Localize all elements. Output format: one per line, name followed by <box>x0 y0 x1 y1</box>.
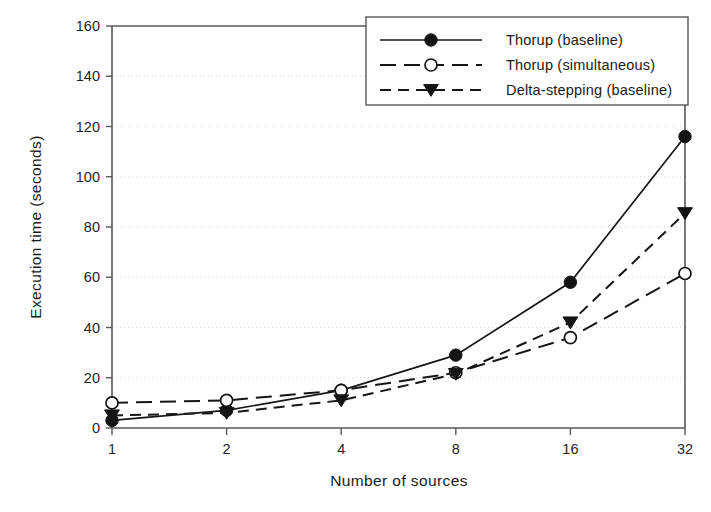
y-tick-label: 100 <box>76 169 100 185</box>
x-tick-label: 2 <box>223 441 231 457</box>
y-tick-label: 0 <box>92 420 100 436</box>
x-tick-label: 4 <box>337 441 345 457</box>
y-tick-label: 160 <box>76 18 100 34</box>
marker-open-circle <box>679 267 691 279</box>
x-tick-label: 1 <box>108 441 116 457</box>
marker-filled-circle <box>679 130 691 142</box>
x-tick-label: 8 <box>452 441 460 457</box>
marker-filled-circle <box>564 276 576 288</box>
line-chart: 020406080100120140160 12481632 Thorup (b… <box>0 0 711 512</box>
series-1 <box>106 130 691 426</box>
marker-open-circle <box>425 59 437 71</box>
series-line <box>112 137 685 421</box>
y-tick-label: 120 <box>76 119 100 135</box>
marker-filled-circle <box>425 34 437 46</box>
series-line <box>112 273 685 402</box>
chart-legend: Thorup (baseline)Thorup (simultaneous)De… <box>366 17 688 105</box>
legend-label: Thorup (simultaneous) <box>506 57 655 73</box>
x-tick-label: 16 <box>562 441 578 457</box>
x-axis-title: Number of sources <box>330 472 468 489</box>
marker-open-circle <box>106 397 118 409</box>
x-axis-ticks: 12481632 <box>108 428 693 457</box>
y-axis-title: Execution time (seconds) <box>27 135 44 319</box>
chart-figure: 020406080100120140160 12481632 Thorup (b… <box>0 0 711 512</box>
marker-open-circle <box>564 332 576 344</box>
marker-filled-triangle-down <box>678 208 693 220</box>
series-group <box>105 130 693 426</box>
x-tick-label: 32 <box>677 441 693 457</box>
legend-label: Delta-stepping (baseline) <box>506 82 672 98</box>
y-tick-label: 60 <box>84 269 100 285</box>
marker-open-circle <box>221 394 233 406</box>
marker-filled-triangle-down <box>563 317 578 329</box>
series-line <box>112 213 685 415</box>
y-tick-label: 80 <box>84 219 100 235</box>
marker-filled-circle <box>450 349 462 361</box>
y-axis-ticks: 020406080100120140160 <box>76 18 112 436</box>
y-tick-label: 140 <box>76 68 100 84</box>
gridlines <box>112 76 685 378</box>
legend-label: Thorup (baseline) <box>506 32 623 48</box>
y-tick-label: 40 <box>84 320 100 336</box>
y-tick-label: 20 <box>84 370 100 386</box>
